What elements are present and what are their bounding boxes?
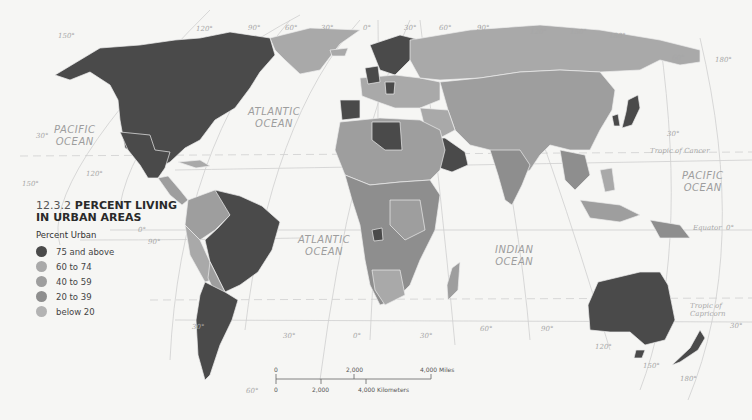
japan bbox=[622, 95, 640, 128]
lon-label: 60° bbox=[480, 325, 492, 333]
legend-swatch-icon bbox=[36, 276, 47, 287]
scale-km-4000: 4,000 Kilometers bbox=[358, 386, 409, 393]
ocean-label-line: INDIAN bbox=[495, 244, 533, 256]
legend-label: 40 to 59 bbox=[56, 277, 92, 287]
lon-label: 150° bbox=[643, 362, 660, 370]
lon-label: 60° bbox=[246, 387, 258, 395]
scale-km-0: 0 bbox=[274, 386, 278, 393]
legend-item: 60 to 74 bbox=[36, 259, 216, 274]
lon-label: 180° bbox=[680, 375, 697, 383]
lon-label: 120° bbox=[595, 343, 612, 351]
lon-label: 120° bbox=[196, 25, 213, 33]
lon-label: 120° bbox=[530, 28, 547, 36]
lon-label: 0° bbox=[353, 332, 361, 340]
ocean-label-line: OCEAN bbox=[682, 182, 724, 194]
lat-label: 180° bbox=[715, 56, 732, 64]
iberia bbox=[340, 100, 360, 120]
ocean-label-line: OCEAN bbox=[54, 136, 96, 148]
ocean-label-line: PACIFIC bbox=[682, 170, 724, 182]
ocean-label-line: OCEAN bbox=[298, 246, 350, 258]
ocean-label-line: OCEAN bbox=[248, 118, 300, 130]
lon-label: 90° bbox=[477, 24, 489, 32]
legend-swatch-icon bbox=[36, 306, 47, 317]
lon-label: 90° bbox=[248, 24, 260, 32]
scale-miles-4000: 4,000 Miles bbox=[420, 366, 454, 373]
legend-item: 75 and above bbox=[36, 244, 216, 259]
lon-label: 30° bbox=[404, 24, 416, 32]
gabon bbox=[372, 228, 383, 241]
legend-label: below 20 bbox=[56, 307, 95, 317]
equator-label: Equator bbox=[693, 224, 722, 232]
legend: 12.3.2 PERCENT LIVING IN URBAN AREAS Per… bbox=[36, 200, 216, 319]
lat-label: 30° bbox=[730, 322, 742, 330]
lon-label: 0° bbox=[363, 24, 371, 32]
lat-label: 30° bbox=[36, 132, 48, 140]
legend-swatch-icon bbox=[36, 246, 47, 257]
legend-label: 60 to 74 bbox=[56, 262, 92, 272]
scale-miles-2000: 2,000 bbox=[346, 366, 363, 373]
lon-label: 60° bbox=[285, 24, 297, 32]
lon-label: 30° bbox=[420, 332, 432, 340]
lon-label: 30° bbox=[283, 332, 295, 340]
ocean-label-atlantic-south: ATLANTIC OCEAN bbox=[298, 234, 350, 258]
lon-label: 150° bbox=[570, 28, 587, 36]
legend-swatch-icon bbox=[36, 291, 47, 302]
madagascar bbox=[447, 262, 460, 300]
lon-label: 90° bbox=[541, 325, 553, 333]
lon-label: 180° bbox=[609, 32, 626, 40]
ocean-label-line: PACIFIC bbox=[54, 124, 96, 136]
legend-label: 20 to 39 bbox=[56, 292, 92, 302]
scale-km-2000: 2,000 bbox=[312, 386, 329, 393]
ocean-label-atlantic-north: ATLANTIC OCEAN bbox=[248, 106, 300, 130]
lon-label: 150° bbox=[22, 180, 39, 188]
ocean-label-pacific-west: PACIFIC OCEAN bbox=[54, 124, 96, 148]
scale-miles-0: 0 bbox=[274, 366, 278, 373]
ocean-label-pacific-east: PACIFIC OCEAN bbox=[682, 170, 724, 194]
lon-label: 120° bbox=[86, 170, 103, 178]
ocean-label-indian: INDIAN OCEAN bbox=[495, 244, 533, 268]
tropic-of-cancer-label: Tropic of Cancer bbox=[650, 147, 710, 155]
ocean-label-line: OCEAN bbox=[495, 256, 533, 268]
ocean-label-line: ATLANTIC bbox=[248, 106, 300, 118]
new-zealand bbox=[672, 330, 705, 365]
legend-swatch-icon bbox=[36, 261, 47, 272]
map-title: 12.3.2 PERCENT LIVING IN URBAN AREAS bbox=[36, 200, 216, 224]
australia bbox=[588, 272, 675, 345]
lat-label: 0° bbox=[726, 224, 734, 232]
lon-label: 150° bbox=[58, 32, 75, 40]
lon-label: 30° bbox=[321, 24, 333, 32]
legend-item: below 20 bbox=[36, 304, 216, 319]
legend-item: 40 to 59 bbox=[36, 274, 216, 289]
ocean-label-line: ATLANTIC bbox=[298, 234, 350, 246]
tropic-of-capricorn-label: Tropic of Capricorn bbox=[690, 302, 752, 318]
lat-label: 30° bbox=[667, 130, 679, 138]
legend-label: 75 and above bbox=[56, 247, 114, 257]
legend-subtitle: Percent Urban bbox=[36, 230, 216, 240]
legend-item: 20 to 39 bbox=[36, 289, 216, 304]
lat-label: 30° bbox=[192, 323, 204, 331]
lon-label: 60° bbox=[439, 24, 451, 32]
lat-label: 60° bbox=[672, 54, 684, 62]
india bbox=[490, 150, 530, 205]
scale-bar: 0 2,000 4,000 Miles 0 2,000 4,000 Kilome… bbox=[272, 366, 442, 400]
title-line2: IN URBAN AREAS bbox=[36, 211, 141, 224]
